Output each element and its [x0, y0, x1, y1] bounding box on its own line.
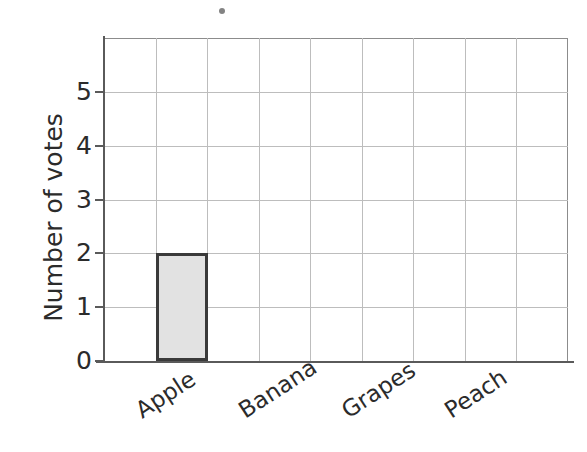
- y-tick-mark-3: [95, 199, 104, 201]
- gridline-v-5: [362, 38, 363, 361]
- y-tick-mark-2: [95, 252, 104, 254]
- y-tick-mark-1: [95, 306, 104, 308]
- y-tick-label-5: 5: [64, 79, 92, 104]
- y-tick-label-3: 3: [64, 187, 92, 212]
- y-tick-label-0: 0: [64, 348, 92, 373]
- x-tick-label-banana: Banana: [235, 355, 321, 422]
- y-tick-mark-5: [95, 91, 104, 93]
- scan-artifact-dot: [219, 8, 225, 14]
- x-tick-label-grapes: Grapes: [338, 358, 419, 422]
- y-tick-label-1: 1: [64, 294, 92, 319]
- y-tick-label-2: 2: [64, 240, 92, 265]
- plot-frame-top-edge: [104, 38, 568, 39]
- y-axis-title: Number of votes: [41, 103, 66, 333]
- chart-plot-area: [104, 38, 568, 361]
- gridline-v-3: [259, 38, 260, 361]
- gridline-v-8: [516, 38, 517, 361]
- gridline-v-7: [465, 38, 466, 361]
- y-tick-mark-4: [95, 145, 104, 147]
- bar-apple: [156, 253, 208, 361]
- gridline-h-5: [104, 92, 568, 93]
- x-tick-label-peach: Peach: [441, 366, 511, 423]
- x-axis-line: [96, 361, 574, 363]
- gridline-v-6: [413, 38, 414, 361]
- gridline-h-3: [104, 200, 568, 201]
- y-tick-label-4: 4: [64, 133, 92, 158]
- gridline-h-4: [104, 146, 568, 147]
- y-tick-mark-0: [95, 360, 104, 362]
- gridline-v-4: [310, 38, 311, 361]
- x-tick-label-apple: Apple: [132, 367, 199, 422]
